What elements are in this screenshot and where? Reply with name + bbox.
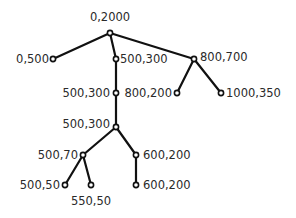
tree-diagram: 0,20000,500500,300800,700500,300800,2001… [0, 0, 296, 218]
tree-edge [83, 127, 116, 155]
tree-node-label: 500,70 [38, 148, 78, 162]
tree-node-marker [80, 152, 85, 157]
tree-node-marker [174, 90, 179, 95]
tree-node-marker [50, 56, 55, 61]
tree-edge [194, 59, 221, 93]
tree-node-label: 500,300 [120, 52, 168, 66]
tree-edge [116, 127, 136, 155]
tree-node-marker [191, 56, 196, 61]
tree-edge [53, 33, 110, 59]
tree-node-label: 0,500 [16, 52, 49, 66]
tree-node-label: 0,2000 [90, 10, 130, 24]
tree-node-marker [62, 182, 67, 187]
tree-node-label: 1000,350 [226, 86, 281, 100]
tree-node-label: 500,300 [62, 117, 110, 131]
tree-node-marker [107, 30, 112, 35]
tree-node-marker [218, 90, 223, 95]
tree-node-label: 500,300 [62, 86, 110, 100]
tree-edge [83, 155, 91, 185]
tree-node-label: 550,50 [71, 194, 111, 208]
tree-node-label: 800,200 [124, 86, 172, 100]
tree-node-marker [113, 90, 118, 95]
tree-node-marker [113, 56, 118, 61]
tree-edge [110, 33, 116, 59]
tree-node-marker [113, 124, 118, 129]
tree-node-marker [133, 182, 138, 187]
tree-labels: 0,20000,500500,300800,700500,300800,2001… [16, 10, 281, 208]
tree-node-marker [133, 152, 138, 157]
tree-node-marker [88, 182, 93, 187]
tree-node-label: 800,700 [200, 50, 248, 64]
tree-node-label: 500,50 [20, 178, 60, 192]
tree-node-label: 600,200 [143, 148, 191, 162]
tree-edge [177, 59, 194, 93]
tree-node-label: 600,200 [143, 178, 191, 192]
